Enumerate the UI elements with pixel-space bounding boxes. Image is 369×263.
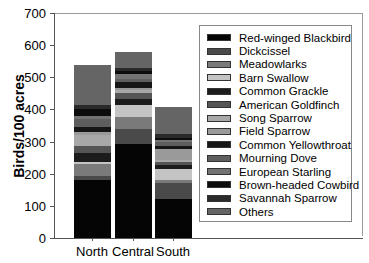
bar-central	[115, 52, 152, 238]
legend-label: Song Sparrow	[239, 112, 312, 124]
y-axis-title: Birds/100 acres	[11, 71, 27, 181]
y-tick	[50, 174, 54, 175]
legend-item: Common Yellowthroat	[200, 138, 351, 151]
legend-label: Savannah Sparrow	[239, 192, 337, 204]
legend-swatch	[207, 181, 231, 188]
legend-swatch	[207, 88, 231, 95]
legend-item: Mourning Dove	[200, 152, 351, 165]
y-tick	[50, 13, 54, 14]
legend-label: American Goldfinch	[239, 99, 339, 111]
x-tick	[133, 238, 134, 241]
legend: Red-winged BlackbirdDickcisselMeadowlark…	[199, 25, 352, 222]
legend-item: Song Sparrow	[200, 111, 351, 124]
legend-item: Red-winged Blackbird	[200, 31, 351, 44]
legend-item: Common Grackle	[200, 85, 351, 98]
y-tick	[50, 45, 54, 46]
bar-segment	[115, 52, 152, 68]
bar-north	[74, 65, 111, 238]
legend-item: Savannah Sparrow	[200, 192, 351, 205]
legend-label: Common Yellowthroat	[239, 139, 351, 151]
legend-label: Others	[239, 206, 274, 218]
bar-segment	[155, 199, 192, 238]
y-tick-label: 600	[6, 39, 46, 52]
y-tick-label: 700	[6, 7, 46, 20]
bar-segment	[155, 107, 192, 134]
bar-segment	[74, 135, 111, 146]
legend-item: Others	[200, 205, 351, 218]
bar-segment	[115, 129, 152, 143]
y-axis	[54, 13, 55, 238]
y-tick	[50, 77, 54, 78]
legend-item: Dickcissel	[200, 44, 351, 57]
bar-segment	[115, 105, 152, 116]
bar-segment	[115, 117, 152, 130]
legend-swatch	[207, 101, 231, 108]
x-tick-label: South	[148, 244, 198, 259]
x-tick	[173, 238, 174, 241]
legend-label: European Starling	[239, 166, 331, 178]
legend-label: Meadowlarks	[239, 58, 307, 70]
legend-swatch	[207, 168, 231, 175]
legend-swatch	[207, 141, 231, 148]
y-tick-label: 0	[6, 232, 46, 245]
bar-segment	[155, 169, 192, 180]
y-tick-label: 400	[6, 103, 46, 116]
legend-label: Red-winged Blackbird	[239, 32, 351, 44]
legend-swatch	[207, 115, 231, 122]
bar-segment	[74, 119, 111, 126]
bar-south	[155, 107, 192, 238]
legend-item: European Starling	[200, 165, 351, 178]
legend-label: Brown-headed Cowbird	[239, 179, 359, 191]
legend-item: American Goldfinch	[200, 98, 351, 111]
bar-segment	[155, 149, 192, 160]
legend-swatch	[207, 48, 231, 55]
y-tick	[50, 206, 54, 207]
y-tick-label: 300	[6, 136, 46, 149]
x-tick	[92, 238, 93, 241]
legend-item: Meadowlarks	[200, 58, 351, 71]
bar-segment	[74, 65, 111, 105]
y-tick-label: 200	[6, 168, 46, 181]
x-axis	[54, 238, 363, 239]
legend-swatch	[207, 195, 231, 202]
legend-item: Brown-headed Cowbird	[200, 178, 351, 191]
legend-label: Field Sparrow	[239, 125, 310, 137]
bar-segment	[155, 183, 192, 199]
y-tick	[50, 142, 54, 143]
legend-swatch	[207, 208, 231, 215]
y-tick	[50, 109, 54, 110]
bar-segment	[74, 164, 111, 176]
y-tick	[50, 238, 54, 239]
legend-swatch	[207, 155, 231, 162]
legend-swatch	[207, 74, 231, 81]
y-tick-label: 500	[6, 71, 46, 84]
bar-segment	[74, 180, 111, 238]
legend-label: Common Grackle	[239, 85, 328, 97]
legend-label: Barn Swallow	[239, 72, 309, 84]
legend-item: Barn Swallow	[200, 71, 351, 84]
y-tick-label: 100	[6, 200, 46, 213]
bar-segment	[74, 153, 111, 162]
legend-label: Dickcissel	[239, 45, 290, 57]
legend-item: Field Sparrow	[200, 125, 351, 138]
legend-swatch	[207, 61, 231, 68]
legend-label: Mourning Dove	[239, 152, 317, 164]
bar-segment	[115, 144, 152, 238]
legend-swatch	[207, 34, 231, 41]
legend-swatch	[207, 128, 231, 135]
